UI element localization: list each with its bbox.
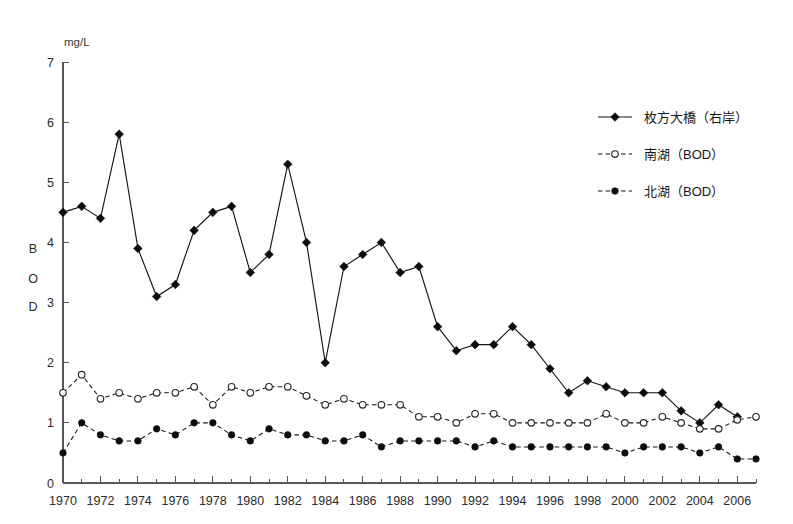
data-point-marker: [434, 414, 441, 421]
x-tick-label: 1996: [536, 494, 564, 508]
data-point-marker: [97, 432, 104, 439]
x-tick-label: 1974: [124, 494, 152, 508]
x-tick-label: 1980: [236, 494, 264, 508]
data-point-marker: [134, 244, 143, 253]
data-point-marker: [509, 420, 516, 427]
data-point-marker: [715, 444, 722, 451]
data-point-marker: [153, 426, 160, 433]
x-tick-label: 1998: [574, 494, 602, 508]
data-point-marker: [490, 411, 497, 418]
data-point-marker: [303, 432, 310, 439]
y-tick-label: 2: [47, 356, 54, 370]
y-axis-ticks: 01234567: [47, 56, 69, 491]
legend-label: 南湖（BOD）: [644, 147, 724, 162]
data-point-marker: [547, 444, 554, 451]
x-tick-label: 2006: [723, 494, 751, 508]
x-tick-label: 1988: [386, 494, 414, 508]
series-2: [60, 371, 760, 432]
data-point-marker: [378, 402, 385, 409]
data-point-marker: [191, 420, 198, 427]
y-axis-unit-label: mg/L: [64, 36, 90, 48]
data-point-marker: [60, 389, 67, 396]
data-point-marker: [603, 411, 610, 418]
x-tick-label: 1992: [461, 494, 489, 508]
x-tick-label: 2000: [611, 494, 639, 508]
data-point-marker: [96, 214, 105, 223]
data-point-marker: [565, 420, 572, 427]
data-point-marker: [210, 402, 217, 409]
data-point-marker: [528, 420, 535, 427]
x-tick-label: 1982: [274, 494, 302, 508]
data-point-marker: [78, 420, 85, 427]
data-point-marker: [97, 396, 104, 403]
data-point-marker: [416, 438, 423, 445]
data-point-marker: [322, 438, 329, 445]
data-point-marker: [640, 444, 647, 451]
data-point-marker: [697, 450, 704, 457]
data-point-marker: [565, 444, 572, 451]
y-axis-title-char: B: [29, 242, 37, 256]
data-point-marker: [340, 262, 349, 271]
data-point-marker: [621, 388, 630, 397]
y-tick-label: 3: [47, 296, 54, 310]
data-point-marker: [603, 444, 610, 451]
bod-trend-chart: 01234567 1970197219741976197819801982198…: [0, 0, 793, 524]
legend-label: 枚方大橋（右岸）: [644, 110, 748, 125]
data-point-marker: [266, 383, 273, 390]
data-point-marker: [528, 444, 535, 451]
series-1: [59, 130, 742, 427]
y-tick-label: 4: [47, 236, 54, 250]
data-point-marker: [78, 371, 85, 378]
series-line: [63, 134, 737, 423]
data-point-marker: [453, 438, 460, 445]
data-point-marker: [152, 292, 161, 301]
y-tick-label: 1: [47, 416, 54, 430]
data-point-marker: [640, 420, 647, 427]
y-tick-label: 6: [47, 116, 54, 130]
data-point-marker: [303, 392, 310, 399]
y-tick-label: 0: [47, 477, 54, 491]
data-point-marker: [60, 450, 67, 457]
legend-item-1[interactable]: 枚方大橋（右岸）: [598, 110, 748, 125]
data-point-marker: [639, 388, 648, 397]
x-tick-label: 1976: [161, 494, 189, 508]
series-3: [60, 420, 760, 463]
data-point-marker: [266, 426, 273, 433]
data-point-marker: [415, 262, 424, 271]
data-point-marker: [59, 208, 68, 217]
x-axis-ticks: 1970197219741976197819801982198419861988…: [49, 476, 756, 508]
data-point-marker: [359, 402, 366, 409]
data-point-marker: [659, 414, 666, 421]
x-tick-label: 2002: [648, 494, 676, 508]
y-axis-title-char: D: [28, 300, 37, 314]
data-point-marker: [247, 389, 254, 396]
data-point-marker: [416, 414, 423, 421]
data-point-marker: [697, 426, 704, 433]
data-point-marker: [135, 396, 142, 403]
data-point-marker: [228, 383, 235, 390]
data-point-marker: [612, 188, 619, 195]
data-point-marker: [584, 420, 591, 427]
legend-item-3[interactable]: 北湖（BOD）: [598, 184, 724, 199]
data-point-marker: [612, 151, 619, 158]
data-point-marker: [434, 438, 441, 445]
data-point-marker: [602, 382, 611, 391]
data-point-marker: [171, 280, 180, 289]
data-point-marker: [321, 358, 330, 367]
data-point-marker: [115, 130, 124, 139]
data-point-marker: [396, 268, 405, 277]
data-point-marker: [715, 426, 722, 433]
x-tick-label: 2004: [686, 494, 714, 508]
x-tick-label: 1986: [349, 494, 377, 508]
data-point-marker: [378, 444, 385, 451]
data-point-marker: [472, 444, 479, 451]
chart-canvas: 01234567 1970197219741976197819801982198…: [0, 0, 793, 524]
data-point-marker: [753, 414, 760, 421]
data-point-marker: [228, 432, 235, 439]
data-point-marker: [583, 376, 592, 385]
data-point-marker: [397, 438, 404, 445]
data-point-marker: [678, 420, 685, 427]
data-point-marker: [359, 432, 366, 439]
legend-item-2[interactable]: 南湖（BOD）: [598, 147, 724, 162]
y-tick-label: 5: [47, 176, 54, 190]
